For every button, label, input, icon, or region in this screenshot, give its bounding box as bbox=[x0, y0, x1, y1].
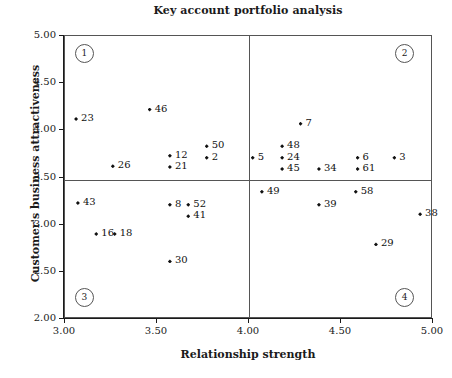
quadrant-badge-2: 2 bbox=[395, 44, 414, 63]
quadrant-divider-horizontal bbox=[65, 180, 431, 181]
diamond-marker-icon bbox=[355, 166, 361, 172]
diamond-marker-icon bbox=[417, 211, 423, 217]
diamond-marker-icon bbox=[204, 143, 210, 149]
data-point-label: 6 bbox=[363, 151, 369, 162]
scatter-chart-figure: Key account portfolio analysis Customer'… bbox=[0, 0, 452, 378]
diamond-marker-icon bbox=[185, 202, 191, 208]
diamond-marker-icon bbox=[391, 155, 397, 161]
y-tick-label: 4.00 bbox=[16, 124, 56, 134]
y-tick-label: 3.50 bbox=[16, 172, 56, 182]
diamond-marker-icon bbox=[316, 166, 322, 172]
diamond-marker-icon bbox=[204, 155, 210, 161]
chart-title: Key account portfolio analysis bbox=[64, 4, 432, 17]
y-tick-label: 2.50 bbox=[16, 266, 56, 276]
x-tick-label: 5.00 bbox=[409, 326, 452, 336]
x-tick-label: 4.50 bbox=[317, 326, 363, 336]
data-point-label: 30 bbox=[175, 254, 188, 265]
data-point-label: 24 bbox=[287, 151, 300, 162]
data-point-label: 23 bbox=[81, 112, 94, 123]
data-point-label: 3 bbox=[399, 151, 405, 162]
data-point-label: 58 bbox=[361, 185, 374, 196]
x-tick-label: 3.00 bbox=[41, 326, 87, 336]
x-tick-mark bbox=[432, 318, 433, 323]
diamond-marker-icon bbox=[167, 164, 173, 170]
diamond-marker-icon bbox=[93, 231, 99, 237]
diamond-marker-icon bbox=[147, 107, 153, 113]
data-point-label: 43 bbox=[83, 196, 96, 207]
diamond-marker-icon bbox=[73, 116, 79, 122]
diamond-marker-icon bbox=[75, 200, 81, 206]
diamond-marker-icon bbox=[167, 202, 173, 208]
diamond-marker-icon bbox=[353, 189, 359, 195]
data-point-label: 45 bbox=[287, 162, 300, 173]
data-point-label: 21 bbox=[175, 160, 188, 171]
quadrant-badge-3: 3 bbox=[75, 288, 94, 307]
data-point-label: 46 bbox=[155, 103, 168, 114]
x-tick-label: 3.50 bbox=[133, 326, 179, 336]
y-tick-label: 4.50 bbox=[16, 77, 56, 87]
x-tick-mark bbox=[64, 318, 65, 323]
data-point-label: 29 bbox=[381, 237, 394, 248]
x-tick-mark bbox=[156, 318, 157, 323]
data-point-label: 18 bbox=[120, 227, 133, 238]
x-tick-mark bbox=[340, 318, 341, 323]
data-point-label: 5 bbox=[258, 151, 264, 162]
diamond-marker-icon bbox=[112, 231, 118, 237]
plot-area: 1234 23462612215027548244534661349583938… bbox=[64, 35, 432, 318]
diamond-marker-icon bbox=[167, 258, 173, 264]
data-point-label: 50 bbox=[212, 139, 225, 150]
quadrant-divider-vertical bbox=[249, 36, 250, 317]
diamond-marker-icon bbox=[355, 155, 361, 161]
diamond-marker-icon bbox=[167, 153, 173, 159]
y-tick-label: 3.00 bbox=[16, 219, 56, 229]
data-point-label: 41 bbox=[193, 209, 206, 220]
diamond-marker-icon bbox=[298, 121, 304, 127]
quadrant-badge-4: 4 bbox=[395, 288, 414, 307]
diamond-marker-icon bbox=[279, 155, 285, 161]
diamond-marker-icon bbox=[316, 202, 322, 208]
data-point-label: 12 bbox=[175, 149, 188, 160]
diamond-marker-icon bbox=[279, 143, 285, 149]
diamond-marker-icon bbox=[279, 166, 285, 172]
y-tick-label: 5.00 bbox=[16, 30, 56, 40]
quadrant-badge-1: 1 bbox=[75, 44, 94, 63]
diamond-marker-icon bbox=[250, 155, 256, 161]
x-tick-mark bbox=[248, 318, 249, 323]
data-point-label: 26 bbox=[118, 159, 131, 170]
data-point-label: 34 bbox=[324, 162, 337, 173]
data-point-label: 52 bbox=[193, 198, 206, 209]
data-point-label: 2 bbox=[212, 151, 218, 162]
data-point-label: 61 bbox=[363, 162, 376, 173]
data-point-label: 8 bbox=[175, 198, 181, 209]
data-point-label: 7 bbox=[306, 117, 312, 128]
diamond-marker-icon bbox=[110, 163, 116, 169]
x-tick-label: 4.00 bbox=[225, 326, 271, 336]
diamond-marker-icon bbox=[259, 189, 265, 195]
diamond-marker-icon bbox=[373, 241, 379, 247]
data-point-label: 48 bbox=[287, 139, 300, 150]
data-point-label: 49 bbox=[267, 185, 280, 196]
diamond-marker-icon bbox=[185, 213, 191, 219]
y-tick-label: 2.00 bbox=[16, 313, 56, 323]
data-point-label: 38 bbox=[425, 207, 438, 218]
x-axis-title: Relationship strength bbox=[64, 348, 432, 361]
data-point-label: 39 bbox=[324, 198, 337, 209]
